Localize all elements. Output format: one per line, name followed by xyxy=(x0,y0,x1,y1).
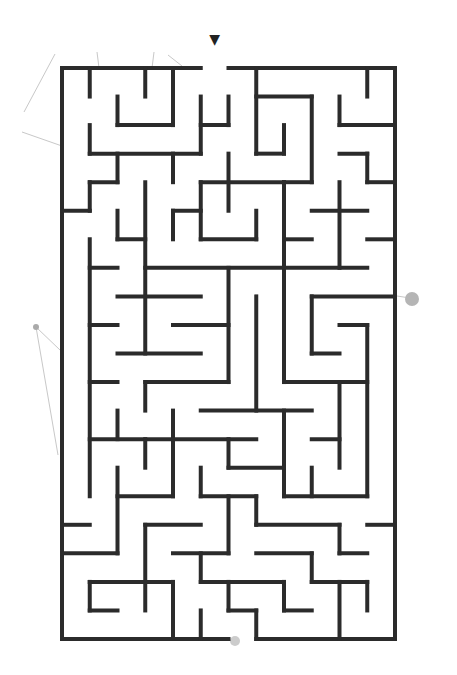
sketch-line xyxy=(97,52,99,68)
sketch-line xyxy=(152,52,154,68)
maze-canvas: ▼ xyxy=(0,0,457,675)
sketch-dot xyxy=(33,324,39,330)
sketch-line xyxy=(22,132,62,146)
sketch-line xyxy=(36,327,58,455)
sketch-line xyxy=(24,54,55,112)
decorative-sketch-lines xyxy=(22,52,419,646)
maze-walls xyxy=(62,68,395,639)
maze-entrance[interactable] xyxy=(201,62,229,74)
sketch-dot xyxy=(405,292,419,306)
maze-exit[interactable] xyxy=(229,633,257,645)
entrance-arrow-icon: ▼ xyxy=(209,31,220,47)
sketch-line xyxy=(168,55,182,66)
